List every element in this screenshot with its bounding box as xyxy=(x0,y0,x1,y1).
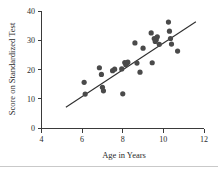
data-point xyxy=(167,29,172,34)
data-point xyxy=(99,72,104,77)
y-axis-group: 40 30 20 10 0 Score on Standardized Test xyxy=(7,7,42,133)
data-point xyxy=(119,66,124,71)
data-point xyxy=(137,70,142,75)
data-point xyxy=(140,46,145,51)
chart-canvas: 40 30 20 10 0 Score on Standardized Test… xyxy=(0,0,218,170)
scatter-plot-figure: 40 30 20 10 0 Score on Standardized Test… xyxy=(0,0,218,170)
data-point xyxy=(101,88,106,93)
y-tick-label-0: 0 xyxy=(31,124,35,133)
x-tick-label-4: 4 xyxy=(40,135,44,144)
data-point xyxy=(168,36,173,41)
data-point xyxy=(120,91,125,96)
data-point xyxy=(175,48,180,53)
data-point xyxy=(149,30,154,35)
data-points-group xyxy=(82,20,181,97)
y-tick-label-20: 20 xyxy=(27,66,35,75)
data-point xyxy=(150,60,155,65)
y-tick-label-30: 30 xyxy=(27,36,35,45)
data-point xyxy=(155,34,160,39)
data-point xyxy=(82,80,87,85)
data-point xyxy=(169,41,174,46)
data-point xyxy=(134,60,139,65)
data-point xyxy=(83,91,88,96)
data-point xyxy=(112,67,117,72)
x-tick-label-6: 6 xyxy=(80,135,84,144)
data-point xyxy=(157,42,162,47)
x-tick-label-12: 12 xyxy=(200,135,208,144)
y-tick-label-40: 40 xyxy=(27,7,35,16)
x-axis-group: 4 6 8 10 12 Age in Years xyxy=(40,129,209,161)
x-axis-title: Age in Years xyxy=(102,150,146,160)
x-tick-label-10: 10 xyxy=(159,135,167,144)
x-tick-label-8: 8 xyxy=(121,135,125,144)
y-tick-label-10: 10 xyxy=(27,95,35,104)
data-point xyxy=(125,60,130,65)
data-point xyxy=(132,40,137,45)
y-axis-title: Score on Standardized Test xyxy=(7,22,17,115)
data-point xyxy=(97,65,102,70)
data-point xyxy=(166,20,171,25)
